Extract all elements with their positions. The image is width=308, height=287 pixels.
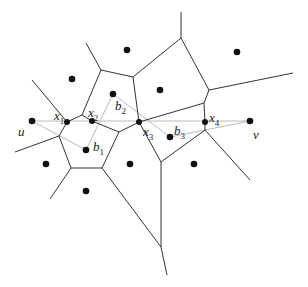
site-point bbox=[69, 76, 76, 83]
label-v: v bbox=[253, 128, 259, 141]
voronoi-edge bbox=[161, 247, 167, 275]
site-point bbox=[127, 161, 134, 168]
voronoi-edge bbox=[139, 103, 204, 122]
site-point bbox=[191, 161, 198, 168]
voronoi-edge bbox=[119, 122, 139, 132]
voronoi-edge bbox=[92, 121, 119, 132]
site-point bbox=[157, 87, 164, 94]
voronoi-edge bbox=[102, 132, 119, 168]
site-point bbox=[83, 147, 90, 154]
label-x4: x4 bbox=[209, 111, 219, 128]
site-point bbox=[167, 134, 174, 141]
label-b2: b2 bbox=[115, 99, 126, 116]
voronoi-edge bbox=[205, 130, 250, 180]
voronoi-diagram: ux1x2b2x3b3b1x4v bbox=[0, 0, 308, 287]
label-x1: x1 bbox=[54, 109, 64, 126]
site-point bbox=[83, 188, 90, 195]
site-point bbox=[124, 47, 131, 54]
voronoi-edge bbox=[133, 77, 139, 122]
path-point bbox=[64, 119, 70, 125]
site-point bbox=[29, 118, 36, 125]
label-x2: x2 bbox=[88, 106, 98, 123]
site-point bbox=[247, 118, 254, 125]
voronoi-edge bbox=[50, 168, 71, 199]
voronoi-edge bbox=[102, 168, 161, 247]
voronoi-edge bbox=[204, 90, 209, 103]
label-u: u bbox=[18, 125, 25, 138]
site-point bbox=[43, 161, 50, 168]
path-point bbox=[136, 119, 142, 125]
voronoi-edge bbox=[133, 38, 181, 77]
voronoi-edge bbox=[101, 70, 133, 77]
label-x3: x3 bbox=[143, 125, 153, 142]
site-point bbox=[110, 91, 117, 98]
diagram-svg bbox=[0, 0, 308, 287]
label-b1: b1 bbox=[93, 140, 104, 157]
path-point bbox=[202, 119, 208, 125]
site-point bbox=[234, 49, 241, 56]
voronoi-edge bbox=[181, 38, 209, 90]
voronoi-edge bbox=[86, 43, 101, 70]
label-b3: b3 bbox=[174, 124, 185, 141]
voronoi-edge bbox=[209, 73, 293, 90]
